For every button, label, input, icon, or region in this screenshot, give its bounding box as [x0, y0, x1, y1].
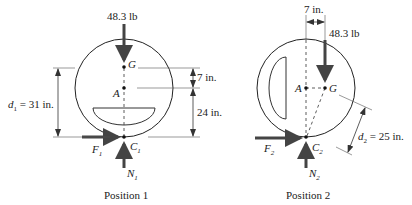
caption-position-2: Position 2	[286, 189, 330, 201]
label-A-2: A	[294, 82, 302, 94]
weight-label-1: 48.3 lb	[107, 10, 138, 22]
label-N-2: N2	[308, 167, 320, 182]
point-C-1	[122, 135, 126, 139]
d2-label: d2 = 25 in.	[358, 130, 404, 145]
diagram-canvas: 48.3 lb G A C1 F1 N1 d1 = 31 in. 7 in. 2…	[0, 0, 412, 205]
label-A-1: A	[112, 87, 120, 99]
label-G-1: G	[128, 58, 136, 70]
position-1-diagram: 48.3 lb G A C1 F1 N1 d1 = 31 in. 7 in. 2…	[8, 10, 222, 201]
point-A-1	[122, 86, 126, 90]
position-2-diagram: 7 in. 48.3 lb A G C2 F2 N2 d2 = 25 in. P…	[255, 3, 404, 201]
point-G-2	[323, 86, 327, 90]
dim-AC-label-1: 24 in.	[197, 106, 222, 118]
label-F-2: F2	[263, 142, 275, 157]
half-disc-2	[269, 57, 286, 119]
label-N-1: N1	[126, 167, 138, 182]
dim-GA-label-1: 7 in.	[197, 71, 217, 83]
label-C-2: C2	[312, 141, 323, 156]
d2-ext-G	[339, 95, 372, 110]
dim-AG-label-2: 7 in.	[304, 3, 324, 15]
weight-label-2: 48.3 lb	[329, 27, 360, 39]
point-A-2	[304, 86, 308, 90]
point-C-2	[304, 135, 308, 139]
caption-position-1: Position 1	[104, 189, 148, 201]
d1-label: d1 = 31 in.	[8, 98, 54, 113]
label-G-2: G	[329, 82, 337, 94]
label-F-1: F1	[91, 143, 102, 158]
label-C-1: C1	[130, 140, 141, 155]
point-G-1	[122, 65, 126, 69]
GC-dashed-2	[307, 88, 325, 136]
